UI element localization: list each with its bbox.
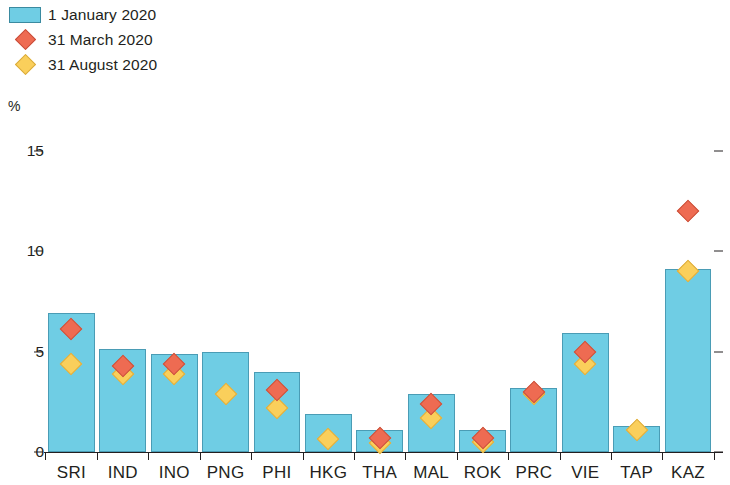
x-axis-tick-mark <box>251 452 252 460</box>
x-axis-tick-mark <box>303 452 304 460</box>
x-axis-label-phi: PHI <box>262 463 291 483</box>
x-axis-line <box>44 452 723 453</box>
x-axis-tick-mark <box>354 452 355 460</box>
chart-plot-area: 051015SRIINDINOPNGPHIHKGTHAMALROKPRCVIET… <box>0 0 730 485</box>
y-axis-tick-mark-right <box>714 251 723 252</box>
x-axis-label-ino: INO <box>159 463 190 483</box>
x-axis-tick-mark <box>662 452 663 460</box>
x-axis-label-mal: MAL <box>413 463 449 483</box>
bar-kaz <box>665 269 712 452</box>
x-axis-tick-mark <box>200 452 201 460</box>
x-axis-tick-mark-start <box>45 452 46 460</box>
y-axis-tick-mark-right <box>714 150 723 151</box>
x-axis-label-hkg: HKG <box>309 463 347 483</box>
x-axis-label-sri: SRI <box>57 463 86 483</box>
y-axis-tick-mark-right <box>714 351 723 352</box>
y-axis-tick-mark <box>34 150 43 151</box>
x-axis-label-kaz: KAZ <box>671 463 705 483</box>
y-axis-tick-mark <box>34 251 43 252</box>
x-axis-label-png: PNG <box>207 463 245 483</box>
x-axis-tick-mark <box>714 452 715 460</box>
y-axis-tick-mark-right <box>714 452 723 453</box>
x-axis-label-ind: IND <box>108 463 138 483</box>
x-axis-tick-mark <box>457 452 458 460</box>
x-axis-tick-mark <box>560 452 561 460</box>
x-axis-tick-mark <box>97 452 98 460</box>
y-axis-tick-mark <box>34 351 43 352</box>
x-axis-label-prc: PRC <box>515 463 552 483</box>
x-axis-label-tap: TAP <box>620 463 653 483</box>
x-axis-tick-mark <box>405 452 406 460</box>
y-axis-tick-mark <box>34 452 43 453</box>
x-axis-label-rok: ROK <box>464 463 502 483</box>
x-axis-label-tha: THA <box>362 463 397 483</box>
x-axis-tick-mark <box>508 452 509 460</box>
x-axis-tick-mark <box>148 452 149 460</box>
x-axis-label-vie: VIE <box>571 463 599 483</box>
x-axis-tick-mark <box>611 452 612 460</box>
marker-mar-kaz <box>677 199 700 222</box>
